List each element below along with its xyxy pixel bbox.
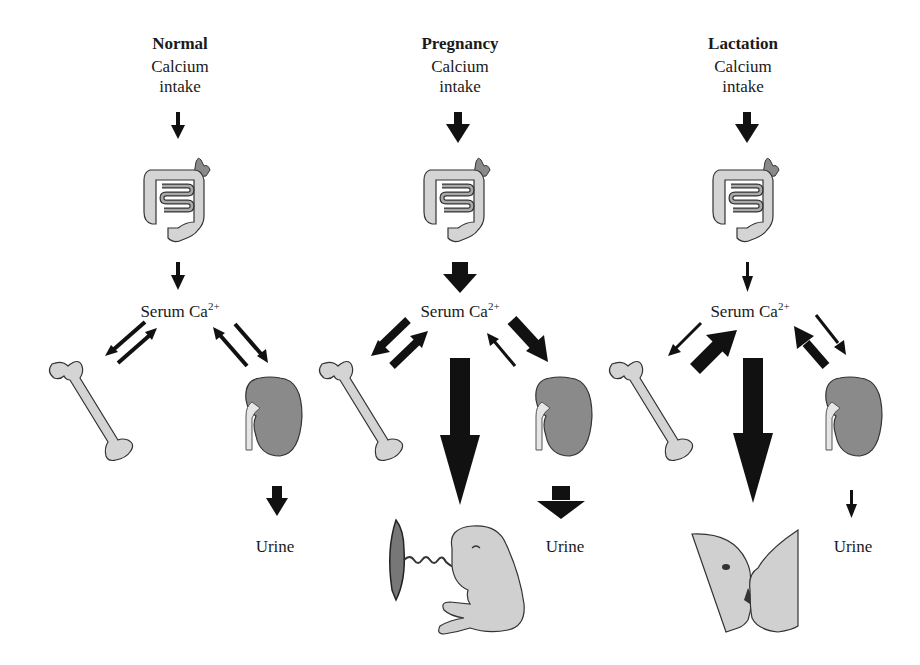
arrow-urine-normal	[266, 486, 288, 516]
arrow-absorption-normal	[171, 262, 185, 290]
arrow-serum-to-infant	[733, 358, 773, 503]
kidney-icon-normal	[246, 377, 302, 456]
arrow-serum-to-fetus	[440, 358, 480, 505]
arrow-bone-to-serum-lactation	[695, 330, 737, 369]
fetus-icon	[390, 520, 524, 634]
arrow-serum-to-bone-normal	[105, 322, 145, 356]
arrow-urine-pregnancy	[537, 486, 585, 519]
arrow-serum-to-kidney-lactation	[816, 315, 846, 355]
arrow-intake-pregnancy	[446, 112, 470, 143]
bone-icon-pregnancy	[319, 362, 402, 461]
bone-icon-lactation	[609, 362, 692, 461]
kidney-icon-pregnancy	[536, 377, 592, 456]
arrow-absorption-lactation	[742, 262, 753, 292]
bone-icon-normal	[49, 362, 132, 461]
arrow-bone-to-serum-pregnancy	[392, 331, 428, 366]
diagram-artwork	[0, 0, 920, 665]
arrow-intake-normal	[171, 112, 185, 139]
intestine-icon-lactation	[713, 158, 779, 241]
arrow-absorption-pregnancy	[443, 262, 477, 293]
intestine-icon-pregnancy	[424, 158, 490, 241]
arrow-serum-to-kidney-pregnancy	[512, 320, 548, 362]
breastfeeding-icon	[692, 530, 798, 632]
arrow-urine-lactation	[846, 490, 857, 518]
arrow-kidney-to-serum-pregnancy	[487, 333, 515, 366]
arrow-bone-to-serum-normal	[118, 328, 157, 363]
arrow-intake-lactation	[735, 112, 759, 143]
intestine-icon-normal	[144, 158, 210, 241]
kidney-icon-lactation	[826, 377, 882, 456]
arrow-kidney-to-serum-lactation	[794, 326, 826, 366]
arrow-serum-to-bone-lactation	[668, 323, 701, 356]
